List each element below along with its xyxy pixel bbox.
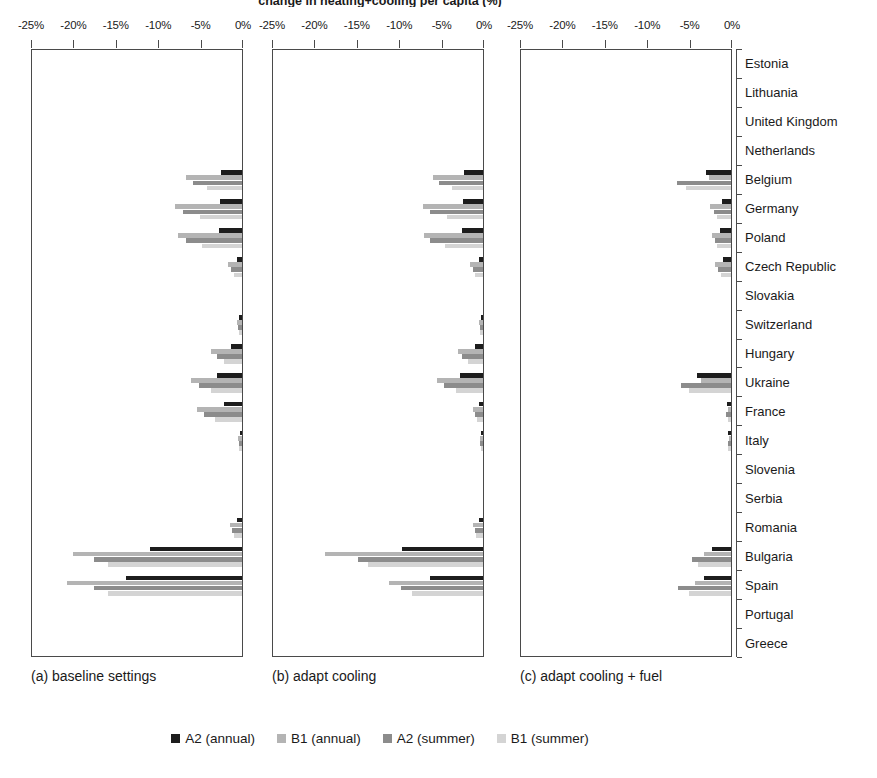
category-label: Switzerland	[745, 317, 812, 332]
x-tick-label: -20%	[60, 19, 86, 31]
x-tick	[272, 40, 273, 48]
panel-caption-b: (b) adapt cooling	[272, 668, 376, 684]
bar	[197, 407, 242, 412]
x-tick	[116, 40, 117, 48]
bar-group	[521, 54, 731, 74]
bar	[231, 267, 242, 272]
category-tick	[737, 541, 742, 542]
bar	[704, 576, 731, 581]
category-tick	[737, 49, 742, 50]
bar	[231, 344, 242, 349]
x-tick-label: -25%	[18, 19, 44, 31]
bar	[423, 204, 483, 209]
bar	[456, 388, 483, 393]
category-label: Slovenia	[745, 461, 795, 476]
bar	[728, 417, 731, 422]
bar	[439, 181, 483, 186]
bar-group	[521, 431, 731, 451]
bar	[681, 383, 731, 388]
x-tick-label: -5%	[680, 19, 700, 31]
x-tick-label: -15%	[592, 19, 618, 31]
chart-legend: A2 (annual)B1 (annual)A2 (summer)B1 (sum…	[0, 731, 760, 746]
bar	[193, 181, 242, 186]
bar	[238, 325, 242, 330]
bar	[178, 233, 242, 238]
bar-group	[521, 112, 731, 132]
bar	[234, 533, 242, 538]
bar-group	[32, 286, 242, 306]
bar-group	[273, 402, 483, 422]
x-tick	[520, 40, 521, 48]
bar	[677, 181, 731, 186]
bar-group	[521, 605, 731, 625]
bar	[468, 359, 483, 364]
bar	[727, 402, 731, 407]
x-tick	[647, 40, 648, 48]
x-tick-label: -5%	[191, 19, 211, 31]
bar	[728, 446, 731, 451]
category-label: Hungary	[745, 346, 794, 361]
bar	[238, 436, 242, 441]
bar	[714, 210, 731, 215]
bar	[464, 170, 483, 175]
bar	[695, 581, 731, 586]
category-tick	[737, 310, 742, 311]
bar	[445, 244, 483, 249]
bar	[94, 586, 242, 591]
bar	[230, 523, 242, 528]
x-axis-b: -25%-20%-15%-10%-5%0%	[272, 40, 484, 49]
bar	[358, 557, 484, 562]
bar-group	[273, 228, 483, 248]
bar-group	[273, 170, 483, 190]
bar	[697, 373, 731, 378]
category-tick	[737, 107, 742, 108]
category-label: Netherlands	[745, 143, 815, 158]
category-label: Portugal	[745, 606, 793, 621]
bar	[476, 533, 483, 538]
bar	[108, 562, 242, 567]
bar	[207, 186, 242, 191]
x-tick	[73, 40, 74, 48]
bar	[224, 402, 242, 407]
bar-group	[521, 257, 731, 277]
bar	[239, 441, 242, 446]
bar-group	[521, 576, 731, 596]
bar	[475, 273, 483, 278]
category-tick	[737, 657, 742, 658]
bar	[220, 199, 242, 204]
bar	[479, 402, 483, 407]
x-tick-label: -15%	[344, 19, 370, 31]
bar	[199, 383, 242, 388]
x-tick	[605, 40, 606, 48]
bar	[224, 359, 242, 364]
bar	[692, 557, 731, 562]
category-label: United Kingdom	[745, 114, 838, 129]
bar-group	[273, 315, 483, 335]
x-tick-label: -25%	[507, 19, 533, 31]
bar-group	[32, 112, 242, 132]
bar-group	[521, 199, 731, 219]
bar	[228, 262, 242, 267]
bar	[722, 199, 731, 204]
bar	[204, 412, 242, 417]
bar-group	[32, 402, 242, 422]
bar	[475, 528, 483, 533]
bar	[458, 349, 483, 354]
bar	[717, 215, 731, 220]
x-tick	[442, 40, 443, 48]
x-tick	[399, 40, 400, 48]
bar	[126, 576, 242, 581]
x-tick	[158, 40, 159, 48]
bar-group	[273, 54, 483, 74]
legend-swatch-icon	[277, 734, 286, 743]
bar	[237, 518, 242, 523]
category-tick	[737, 136, 742, 137]
bar-group	[521, 344, 731, 364]
bar-group	[521, 83, 731, 103]
bar	[234, 273, 242, 278]
legend-label: B1 (annual)	[291, 731, 361, 746]
bar-group	[32, 199, 242, 219]
bar	[452, 186, 483, 191]
legend-item: A2 (summer)	[383, 731, 475, 746]
bar	[239, 330, 242, 335]
